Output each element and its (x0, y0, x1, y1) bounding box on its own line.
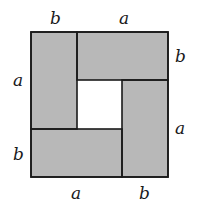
label-bottom-right: b (139, 183, 150, 203)
label-left-bottom: b (13, 144, 24, 164)
label-right-bottom: a (175, 118, 185, 138)
label-bottom-left: a (71, 183, 81, 203)
square-diagram: b a b a a b a b (0, 0, 200, 211)
label-top-right: a (119, 8, 129, 28)
label-left-top: a (13, 70, 23, 90)
label-right-top: b (175, 46, 186, 66)
center-hole (77, 80, 122, 129)
label-top-left: b (50, 8, 61, 28)
